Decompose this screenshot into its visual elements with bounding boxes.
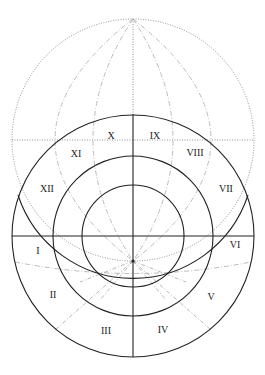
meridian-left-outer bbox=[55, 19, 133, 261]
house-label-5: V bbox=[207, 291, 215, 302]
house-label-4: IV bbox=[158, 324, 169, 335]
house-label-3: III bbox=[101, 325, 111, 336]
house-label-10: X bbox=[107, 130, 115, 141]
ray-lower-right bbox=[133, 261, 211, 330]
house-label-9: IX bbox=[150, 130, 161, 141]
ray-lower-left bbox=[55, 261, 133, 330]
ray-lower-right-2 bbox=[133, 261, 166, 300]
house-label-12: XII bbox=[40, 183, 54, 194]
ray-lower-left-2 bbox=[100, 261, 133, 300]
house-division-diagram: I II III IV V VI VII VIII IX X XI XII bbox=[0, 0, 265, 375]
house-label-1: I bbox=[36, 245, 39, 256]
house-label-8: VIII bbox=[186, 147, 203, 158]
house-label-2: II bbox=[50, 289, 57, 300]
house-label-6: VI bbox=[230, 239, 241, 250]
house-label-7: VII bbox=[219, 183, 233, 194]
focus-point bbox=[131, 259, 134, 262]
house-label-11: XI bbox=[71, 148, 82, 159]
